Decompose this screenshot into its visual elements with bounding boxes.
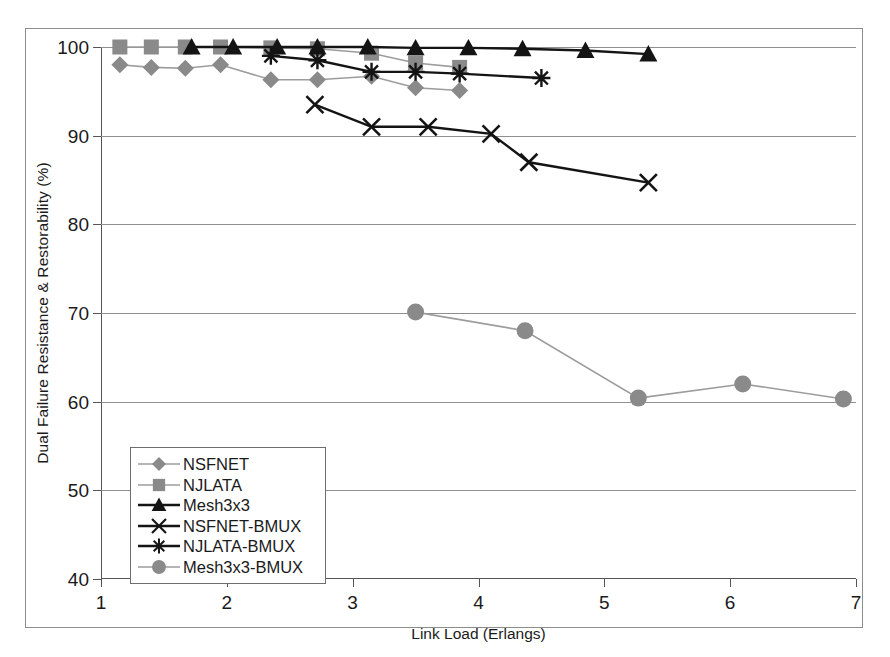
circle-marker [835,391,852,408]
x-axis-title-text: Link Load (Erlangs) [411,625,545,642]
x-marker [306,96,323,113]
asterisk-marker [407,63,425,81]
x-tick-7 [856,579,857,587]
y-tick-50 [93,490,101,491]
diamond-marker [262,71,279,88]
legend-item-label: Mesh3x3-BMUX [181,559,303,576]
series-nsfnet-bmux [306,96,656,191]
triangle-icon [137,495,181,515]
x-tick-label-7: 7 [851,593,862,612]
diamond-marker [152,457,166,471]
y-tick-label-40: 40 [68,570,89,589]
y-axis-title: Dual Failure Resistance & Restorability … [32,47,54,579]
y-tick-90 [93,136,101,137]
series-njlata-bmux [262,47,551,87]
square-icon [137,475,181,495]
asterisk-marker [262,47,280,65]
x-tick-label-4: 4 [473,593,484,612]
y-tick-label-80: 80 [68,215,89,234]
y-axis-title-text: Dual Failure Resistance & Restorability … [34,162,52,464]
legend-item-label: Mesh3x3 [181,497,250,514]
legend-item-label: NJLATA-BMUX [181,538,295,555]
y-tick-label-50: 50 [68,481,89,500]
series-line [315,105,648,183]
diamond-marker [212,56,229,73]
legend-item-mesh3x3-bmux[interactable]: Mesh3x3-BMUX [137,557,318,578]
circle-marker [152,560,166,574]
square-marker [112,40,127,55]
circle-marker [734,375,751,392]
x-tick-label-2: 2 [222,593,233,612]
x-tick-1 [101,579,102,587]
square-marker [153,479,165,491]
series-mesh3x3-bmux [407,304,852,408]
y-tick-label-70: 70 [68,304,89,323]
y-tick-40 [93,579,101,580]
series-line [416,312,844,399]
y-tick-100 [93,47,101,48]
circle-marker [407,304,424,321]
legend-item-nsfnet[interactable]: NSFNET [137,454,318,475]
circle-marker [517,322,534,339]
legend-item-njlata-bmux[interactable]: NJLATA-BMUX [137,536,318,557]
diamond-marker [309,71,326,88]
x-tick-label-3: 3 [347,593,358,612]
y-tick-70 [93,313,101,314]
legend-item-label: NJLATA [181,477,242,494]
legend-item-label: NSFNET [181,456,249,473]
x-tick-5 [604,579,605,587]
x-tick-6 [730,579,731,587]
diamond-icon [137,454,181,474]
chart-figure: Dual Failure Resistance & Restorability … [25,28,863,628]
x-tick-label-5: 5 [599,593,610,612]
asterisk-marker [363,63,381,81]
asterisk-marker [152,539,167,554]
legend-item-njlata[interactable]: NJLATA [137,475,318,496]
legend-item-label: NSFNET-BMUX [181,518,301,535]
circle-marker [630,390,647,407]
diamond-marker [143,59,160,76]
asterisk-icon [137,536,181,556]
diamond-marker [451,82,468,99]
diamond-marker [111,56,128,73]
y-tick-label-90: 90 [68,126,89,145]
square-marker [144,40,159,55]
y-tick-label-60: 60 [68,392,89,411]
asterisk-marker [532,69,550,87]
x-icon [137,516,181,536]
chart-legend: NSFNETNJLATAMesh3x3NSFNET-BMUXNJLATA-BMU… [130,447,326,584]
x-tick-4 [479,579,480,587]
diamond-marker [177,60,194,77]
y-tick-80 [93,224,101,225]
legend-item-mesh3x3[interactable]: Mesh3x3 [137,495,318,516]
x-tick-label-1: 1 [96,593,107,612]
x-tick-label-6: 6 [725,593,736,612]
x-tick-3 [353,579,354,587]
diamond-marker [407,79,424,96]
legend-item-nsfnet-bmux[interactable]: NSFNET-BMUX [137,516,318,537]
asterisk-marker [308,51,326,69]
asterisk-marker [451,65,469,83]
y-tick-label-100: 100 [57,38,89,57]
circle-icon [137,557,181,577]
x-axis-title: Link Load (Erlangs) [101,625,856,643]
y-tick-60 [93,402,101,403]
